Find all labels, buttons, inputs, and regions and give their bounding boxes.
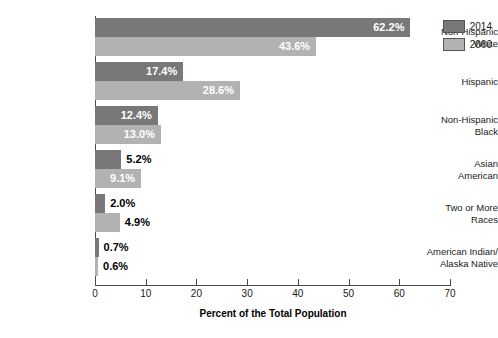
bar-2014[interactable] (95, 150, 121, 169)
bar-row: 17.4% (95, 62, 450, 81)
bar-row: 0.7% (95, 238, 450, 257)
bar-value-label: 9.1% (95, 169, 135, 188)
legend-swatch (443, 20, 465, 33)
x-axis-tick (450, 279, 451, 285)
bar-value-label: 0.6% (103, 257, 128, 276)
legend-item[interactable]: 2014 (443, 18, 492, 34)
bar-row: 12.4% (95, 106, 450, 125)
bar-group: 0.7%0.6% (95, 238, 450, 276)
x-axis-tick-label: 0 (92, 288, 98, 299)
bar-group: 2.0%4.9% (95, 194, 450, 232)
bar-row: 0.6% (95, 257, 450, 276)
bar-value-label: 2.0% (110, 194, 135, 213)
legend-swatch (443, 38, 465, 51)
legend-label: 2060 (470, 39, 492, 50)
bar-row: 62.2% (95, 18, 450, 37)
bar-row: 9.1% (95, 169, 450, 188)
bar-value-label: 0.7% (104, 238, 129, 257)
bar-value-label: 5.2% (126, 150, 151, 169)
x-axis-tick-label: 50 (343, 288, 354, 299)
bar-group: 12.4%13.0% (95, 106, 450, 144)
bar-value-label: 43.6% (95, 37, 310, 56)
bar-group: 17.4%28.6% (95, 62, 450, 100)
x-axis-line (95, 285, 451, 286)
x-axis-tick-label: 40 (292, 288, 303, 299)
x-axis-tick-label: 10 (140, 288, 151, 299)
legend-item[interactable]: 2060 (443, 36, 492, 52)
bar-row: 4.9% (95, 213, 450, 232)
bar-row: 2.0% (95, 194, 450, 213)
bar-2014[interactable] (95, 238, 99, 257)
bar-2060[interactable] (95, 257, 98, 276)
bar-value-label: 4.9% (125, 213, 150, 232)
x-axis-tick-label: 70 (444, 288, 455, 299)
bar-group: 62.2%43.6% (95, 18, 450, 56)
bar-chart: 010203040506070 Non-HispanicWhiteHispani… (0, 0, 498, 338)
bar-value-label: 17.4% (95, 62, 177, 81)
bar-row: 13.0% (95, 125, 450, 144)
x-axis-tick-label: 20 (191, 288, 202, 299)
bar-value-label: 13.0% (95, 125, 155, 144)
bar-value-label: 12.4% (95, 106, 152, 125)
plot-area: 62.2%43.6%17.4%28.6%12.4%13.0%5.2%9.1%2.… (95, 18, 450, 283)
bar-value-label: 28.6% (95, 81, 234, 100)
bar-value-label: 62.2% (95, 18, 404, 37)
legend-label: 2014 (470, 21, 492, 32)
bar-2014[interactable] (95, 194, 105, 213)
x-axis-tick-label: 30 (242, 288, 253, 299)
bar-row: 43.6% (95, 37, 450, 56)
bar-group: 5.2%9.1% (95, 150, 450, 188)
chart-legend: 20142060 (443, 18, 492, 54)
bar-row: 5.2% (95, 150, 450, 169)
x-axis-tick-label: 60 (394, 288, 405, 299)
bar-row: 28.6% (95, 81, 450, 100)
x-axis-title: Percent of the Total Population (95, 308, 451, 319)
bar-2060[interactable] (95, 213, 120, 232)
